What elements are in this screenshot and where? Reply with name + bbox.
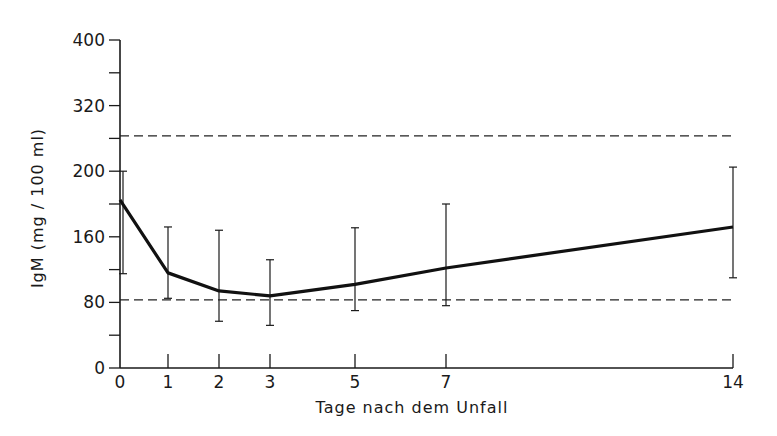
x-tick-label: 3 xyxy=(265,372,276,392)
axes xyxy=(120,40,733,368)
reference-lines xyxy=(120,136,735,300)
y-axis-ticks: 080160200320400 xyxy=(73,30,120,378)
x-tick-label: 14 xyxy=(722,372,744,392)
y-tick-label: 400 xyxy=(73,30,105,50)
x-axis-title: Tage nach dem Unfall xyxy=(315,398,509,417)
x-tick-label: 5 xyxy=(350,372,361,392)
y-tick-label: 320 xyxy=(73,96,105,116)
x-tick-label: 7 xyxy=(441,372,452,392)
x-tick-label: 2 xyxy=(214,372,225,392)
error-bars xyxy=(119,167,737,325)
y-tick-label: 0 xyxy=(94,358,105,378)
y-tick-label: 80 xyxy=(83,292,105,312)
y-tick-label: 160 xyxy=(73,227,105,247)
igm-mean-line xyxy=(120,200,733,296)
x-axis-ticks: 01235714 xyxy=(115,354,744,392)
x-tick-label: 1 xyxy=(163,372,174,392)
y-axis-title: IgM (mg / 100 ml) xyxy=(28,128,47,288)
x-tick-label: 0 xyxy=(115,372,126,392)
igm-line-chart: 080160200320400 01235714 Tage nach dem U… xyxy=(0,0,777,436)
y-tick-label: 200 xyxy=(73,161,105,181)
